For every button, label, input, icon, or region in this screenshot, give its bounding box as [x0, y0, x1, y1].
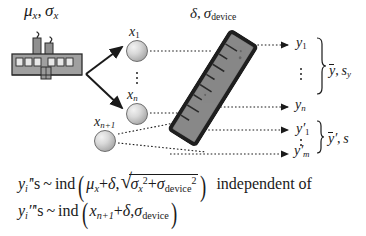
node-label-xn: xn	[127, 88, 138, 103]
circle-node-icon	[126, 40, 148, 62]
formula-line-1: yi′'s~ind(μx+δ,√σx2+σdevice2) independen…	[18, 172, 312, 196]
ellipsis-y-column	[300, 68, 303, 83]
factory-icon	[10, 30, 84, 82]
node-label-x1: x1	[129, 25, 140, 40]
node-label-xn1: xn+1	[94, 115, 115, 130]
circle-node-icon	[126, 103, 148, 125]
process-params-label: μx, σx	[24, 2, 58, 21]
output-label-y1: y1	[296, 36, 307, 51]
figure-canvas: μx, σx δ, σdevice x1 xn xn+1 y1 yn y′1 y…	[0, 0, 366, 236]
formula-line-2: yi′′'s~ind(xn+1+δ,σdevice)	[18, 203, 179, 222]
output-label-yn: yn	[295, 98, 306, 113]
output-label-yprime1: y′1	[296, 122, 310, 137]
solid-arrow-icon	[86, 47, 122, 108]
ellipsis-yprime-column	[300, 139, 303, 149]
summary-label-first: y, sy	[329, 63, 351, 79]
ellipsis-x-column	[136, 72, 139, 87]
device-params-label: δ, σdevice	[190, 6, 236, 22]
summary-label-second: y′, s	[328, 131, 349, 146]
curly-brace-icon	[317, 38, 326, 153]
circle-node-icon	[94, 130, 116, 152]
